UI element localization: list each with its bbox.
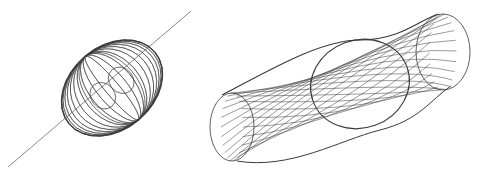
tube-right-end bbox=[416, 14, 470, 90]
figure-canvas bbox=[0, 0, 483, 186]
twisted-tube-figure bbox=[210, 14, 470, 163]
wireframe-illustration bbox=[0, 0, 483, 186]
axis-line bbox=[8, 11, 191, 167]
toroidal-field-figure bbox=[8, 11, 191, 167]
